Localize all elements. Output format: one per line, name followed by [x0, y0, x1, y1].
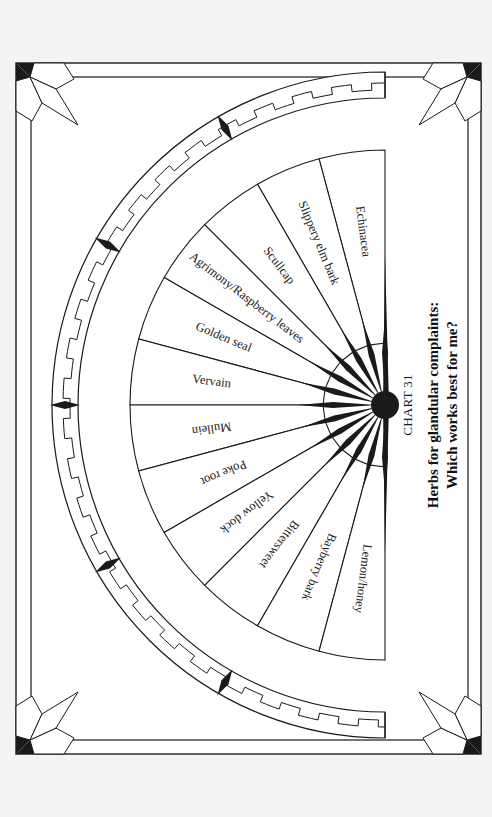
chart-number: CHART 31: [400, 374, 415, 436]
chart-canvas: EchinaceaSlippery elm barkScullcapAgrimo…: [0, 0, 492, 817]
chart-title: Herbs for glandular complaints:: [425, 302, 441, 509]
chart-subtitle: Which works best for me?: [444, 321, 460, 489]
